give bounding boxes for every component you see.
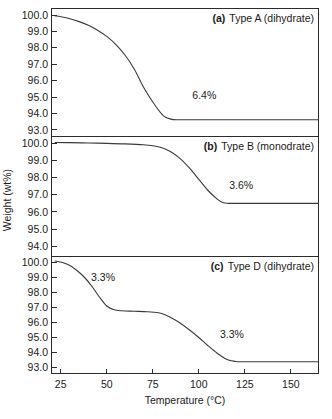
panel-b-y-ticks: [52, 143, 57, 246]
x-tick-label: 25: [55, 378, 67, 390]
weight-loss-annotation: 3.6%: [229, 179, 253, 191]
y-tick-label: 94.0: [28, 240, 49, 252]
x-tick-label: 50: [101, 378, 113, 390]
y-tick-label: 100.0: [22, 9, 48, 21]
tga-figure: 100.099.098.097.096.095.094.093.0 (a)Typ…: [0, 0, 332, 419]
y-tick-label: 95.0: [28, 331, 49, 343]
panel-a-annotations: 6.4%: [192, 89, 216, 101]
panel-c: 100.099.098.097.096.095.094.093.0 (c)Typ…: [22, 256, 319, 373]
panel-a-frame: [52, 9, 319, 137]
x-tick-label: 125: [236, 378, 254, 390]
panel-b-title: (b)Type B (monodrate): [204, 140, 314, 152]
panel-a-y-tick-labels: 100.099.098.097.096.095.094.093.0: [22, 9, 48, 136]
y-tick-label: 93.0: [28, 124, 49, 136]
panel-b-annotations: 3.6%: [229, 179, 253, 191]
panel-c-y-tick-labels: 100.099.098.097.096.095.094.093.0: [22, 256, 48, 373]
y-tick-label: 93.0: [28, 361, 49, 373]
y-tick-label: 95.0: [28, 223, 49, 235]
panel-b-y-tick-labels: 100.099.098.097.096.095.094.0: [22, 137, 48, 252]
y-axis-title: Weight (wt%): [1, 169, 13, 231]
y-tick-label: 96.0: [28, 316, 49, 328]
panel-a-y-ticks: [52, 15, 57, 130]
y-tick-label: 99.0: [28, 271, 49, 283]
weight-loss-annotation: 3.3%: [220, 328, 244, 340]
x-axis-ticks: [61, 369, 291, 374]
y-tick-label: 97.0: [28, 188, 49, 200]
y-tick-label: 97.0: [28, 58, 49, 70]
x-tick-label: 100: [190, 378, 208, 390]
x-tick-label: 75: [147, 378, 159, 390]
y-tick-label: 98.0: [28, 171, 49, 183]
panel-c-title: (c)Type D (dihydrate): [211, 260, 314, 272]
weight-loss-annotation: 3.3%: [91, 271, 115, 283]
y-tick-label: 94.0: [28, 346, 49, 358]
panel-a: 100.099.098.097.096.095.094.093.0 (a)Typ…: [22, 9, 319, 137]
y-tick-label: 96.0: [28, 206, 49, 218]
y-tick-label: 95.0: [28, 91, 49, 103]
y-tick-label: 98.0: [28, 41, 49, 53]
panel-c-y-ticks: [52, 263, 57, 368]
x-axis-title: Temperature (°C): [145, 394, 226, 406]
weight-loss-annotation: 6.4%: [192, 89, 216, 101]
y-tick-label: 99.0: [28, 154, 49, 166]
x-tick-label: 150: [282, 378, 300, 390]
panel-b-frame: [52, 137, 319, 257]
x-axis-tick-labels: 255075100125150: [55, 378, 300, 390]
y-tick-label: 100.0: [22, 256, 48, 268]
panel-a-title: (a)Type A (dihydrate): [213, 12, 314, 24]
y-tick-label: 97.0: [28, 301, 49, 313]
panel-b: 100.099.098.097.096.095.094.0 (b)Type B …: [22, 137, 319, 257]
y-tick-label: 100.0: [22, 137, 48, 149]
panel-c-annotations: 3.3%3.3%: [91, 271, 244, 340]
panel-a-curve: [55, 16, 318, 120]
y-tick-label: 96.0: [28, 74, 49, 86]
y-tick-label: 98.0: [28, 286, 49, 298]
y-tick-label: 94.0: [28, 107, 49, 119]
y-tick-label: 99.0: [28, 25, 49, 37]
thermogravimetric-plot: 100.099.098.097.096.095.094.093.0 (a)Typ…: [0, 0, 332, 419]
